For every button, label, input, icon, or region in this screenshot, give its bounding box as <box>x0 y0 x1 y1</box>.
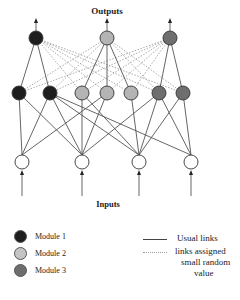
usual-link <box>50 93 191 155</box>
arrowhead-icon <box>137 170 141 175</box>
usual-link <box>82 38 107 93</box>
usual-link <box>19 93 82 155</box>
usual-link <box>170 38 183 93</box>
legend-random-links-2: small random <box>181 257 230 268</box>
inputs-label: Inputs <box>85 199 131 209</box>
usual-link <box>183 93 191 155</box>
random-link <box>82 38 170 93</box>
usual-link <box>159 93 191 155</box>
usual-link <box>19 38 36 93</box>
input-node <box>75 155 89 169</box>
hidden-node <box>12 86 26 100</box>
legend-module-3-label: Module 3 <box>35 266 66 275</box>
usual-link <box>82 93 139 155</box>
legend-random-links-3: value <box>194 268 214 279</box>
random-link <box>107 38 159 93</box>
usual-link <box>22 93 50 155</box>
module-2-swatch-icon <box>14 247 27 260</box>
usual-link <box>139 93 159 155</box>
input-node <box>184 155 198 169</box>
arrowhead-icon <box>20 170 24 175</box>
random-link <box>36 38 131 93</box>
legend-module-3: Module 3 <box>14 262 66 278</box>
arrowhead-icon <box>168 18 172 23</box>
legend-module-2: Module 2 <box>14 245 66 261</box>
usual-link <box>139 93 183 155</box>
hidden-node <box>176 86 190 100</box>
legend-module-1: Module 1 <box>14 228 66 244</box>
legend-module-1-label: Module 1 <box>35 232 66 241</box>
hidden-node <box>152 86 166 100</box>
input-node <box>15 155 29 169</box>
random-link <box>36 38 107 93</box>
arrowhead-icon <box>189 170 193 175</box>
random-link <box>36 38 159 93</box>
arrowhead-icon <box>80 170 84 175</box>
hidden-node <box>100 86 114 100</box>
input-node <box>132 155 146 169</box>
output-node <box>163 31 177 45</box>
usual-link <box>107 38 131 93</box>
outputs-label: Outputs <box>84 6 130 16</box>
random-link-swatch-icon <box>143 252 167 253</box>
output-node <box>29 31 43 45</box>
arrowhead-icon <box>34 18 38 23</box>
usual-link <box>19 93 22 155</box>
arrowhead-icon <box>105 18 109 23</box>
hidden-node <box>75 86 89 100</box>
legend-usual-links: Usual links <box>177 233 218 244</box>
usual-link-swatch-icon <box>143 239 167 240</box>
legend-random-links-1: links assigned <box>175 246 226 257</box>
module-1-swatch-icon <box>14 230 27 243</box>
usual-link <box>36 38 50 93</box>
legend-module-2-label: Module 2 <box>35 249 66 258</box>
output-node <box>100 31 114 45</box>
hidden-node <box>124 86 138 100</box>
hidden-node <box>43 86 57 100</box>
random-link <box>50 38 170 93</box>
usual-link <box>50 93 82 155</box>
module-3-swatch-icon <box>14 264 27 277</box>
usual-link <box>131 93 139 155</box>
